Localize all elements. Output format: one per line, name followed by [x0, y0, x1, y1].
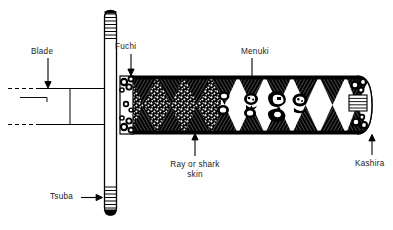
- label-ray-or-shark-skin: Ray or shark skin: [160, 160, 230, 180]
- label-tsuba: Tsuba: [50, 192, 73, 202]
- label-ray-or-shark-skin-line2: skin: [160, 170, 230, 180]
- label-kashira: Kashira: [355, 159, 385, 169]
- fuchi-arrowhead: [128, 69, 134, 75]
- label-menuki: Menuki: [241, 47, 269, 57]
- tsuka-grip-group: [130, 76, 372, 134]
- kashira-band: [349, 95, 367, 111]
- tsuba-arrowhead: [96, 194, 102, 200]
- diagram-page: Blade Fuchi Menuki Ray or shark skin Tsu…: [0, 0, 393, 230]
- tsuba-group: [105, 10, 117, 216]
- kashira-arrowhead: [369, 135, 375, 141]
- tsuba-bottom-cap: [105, 210, 117, 216]
- fuchi-group: [119, 76, 134, 134]
- label-fuchi: Fuchi: [115, 42, 136, 52]
- tsuba-bottom-hatch: [105, 187, 117, 208]
- blade-group: [8, 89, 112, 125]
- label-blade: Blade: [31, 47, 53, 57]
- blade-arrowhead: [45, 82, 51, 88]
- label-ray-or-shark-skin-line1: Ray or shark: [160, 160, 230, 170]
- tsuba-top-cap: [105, 10, 117, 14]
